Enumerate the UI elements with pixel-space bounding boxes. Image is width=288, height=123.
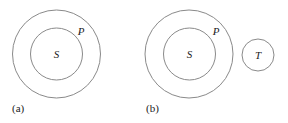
panel-a: S P (a) xyxy=(12,10,101,115)
set-s-label-a: S xyxy=(54,48,60,60)
set-t-label-b: T xyxy=(255,49,262,61)
venn-diagram: S P (a) S P T (b) xyxy=(0,0,288,123)
panel-label-b: (b) xyxy=(146,102,159,115)
panel-label-a: (a) xyxy=(12,102,25,115)
set-p-label-b: P xyxy=(212,25,220,37)
set-s-label-b: S xyxy=(187,48,193,60)
panel-b: S P T (b) xyxy=(145,10,274,115)
set-p-label-a: P xyxy=(77,25,85,37)
